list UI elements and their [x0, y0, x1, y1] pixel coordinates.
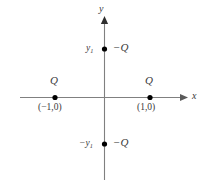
point-marker-left-charge [52, 95, 57, 100]
point-marker-lower-charge [102, 141, 107, 146]
point-marker-upper-charge [102, 46, 107, 51]
left-charge-label: Q [50, 75, 58, 86]
lower-charge-label: −Q [113, 137, 128, 148]
y-axis-arrowhead [101, 16, 108, 24]
left-charge-coordinate: (−1,0) [38, 103, 62, 113]
upper-charge-subscript: 1 [90, 47, 93, 54]
upper-charge-label: −Q [113, 42, 128, 53]
upper-charge-axis-value: y1 [86, 44, 93, 54]
y-axis-label: y [99, 4, 103, 14]
point-marker-right-charge [147, 95, 152, 100]
right-charge-label: Q [145, 75, 153, 86]
x-axis-label: x [192, 91, 196, 101]
right-charge-coordinate: (1,0) [137, 103, 155, 113]
axes-graphic [0, 0, 208, 193]
coordinate-diagram: y x y1 −Q Q (−1,0) Q (1,0) −y1 −Q [0, 0, 208, 193]
x-axis-arrowhead [180, 94, 188, 101]
lower-charge-axis-value: −y1 [79, 139, 93, 149]
lower-charge-subscript: 1 [90, 142, 93, 149]
